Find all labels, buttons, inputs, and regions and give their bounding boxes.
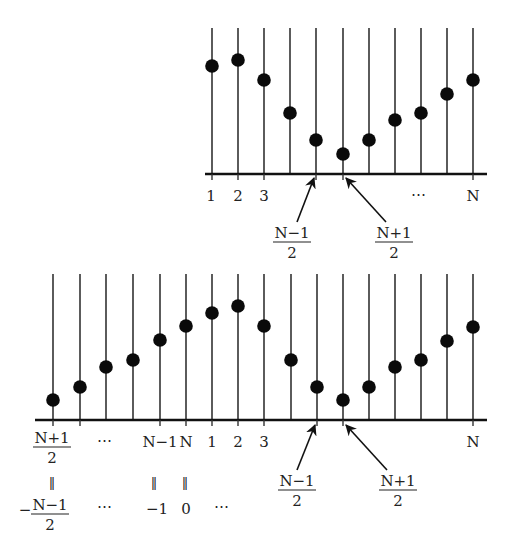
fraction-denominator: 2 [389,244,399,262]
bottom-stem-plot: ⋯N−1N123N‖‖‖⋯−10⋯N+12N−12−N−12N+12 [19,274,487,534]
fraction-denominator: 2 [47,449,57,467]
sample-dot [310,380,324,394]
pointer-arrow [297,425,315,470]
fraction-denominator: 2 [45,516,55,534]
sample-dot [205,59,219,73]
sample-dot [388,113,402,127]
index-label: 3 [259,433,269,451]
sample-dot [466,320,480,334]
sample-dot [153,333,167,347]
index-label: 2 [233,187,243,205]
fraction-numerator: N+1 [34,429,69,447]
fraction-label: N−12 [278,472,316,510]
top-stem-plot: 123⋯NN−12N+12 [205,28,487,262]
index-label: 1 [206,187,216,205]
fraction-denominator: 2 [393,492,403,510]
sample-dot [179,319,193,333]
index-label: N [466,433,479,451]
sample-dot [414,106,428,120]
fraction-numerator: N+1 [380,472,415,490]
pointer-arrow [297,178,314,222]
shifted-index-label: −1 [146,500,168,518]
sample-dot [336,147,350,161]
sample-dot [231,53,245,67]
fraction-numerator: N−1 [279,472,314,490]
sample-dot [283,106,297,120]
equals-mark: ‖ [182,475,189,490]
sample-dot [414,353,428,367]
sample-dot [257,319,271,333]
sample-dot [388,360,402,374]
fraction-label: N+12 [375,224,413,262]
equals-mark: ‖ [151,475,158,490]
sample-dot [466,73,480,87]
sample-dot [46,393,60,407]
sample-dot [336,393,350,407]
index-label: N [179,433,192,451]
equals-mark: ‖ [49,475,56,490]
minus-sign: − [19,501,32,519]
sample-dot [440,87,454,101]
sample-dot [309,133,323,147]
sample-dot [284,353,298,367]
index-label: N−1 [142,433,177,451]
sample-dot [257,73,271,87]
sample-dot [440,334,454,348]
circular-shift-diagram: 123⋯NN−12N+12 ⋯N−1N123N‖‖‖⋯−10⋯N+12N−12−… [0,0,505,556]
fraction-label: N+12 [33,429,71,467]
fraction-denominator: 2 [287,244,297,262]
index-label: ⋯ [411,185,426,203]
fraction-numerator: N−1 [32,496,67,514]
index-label: 2 [233,433,243,451]
sample-dot [205,306,219,320]
sample-dot [126,353,140,367]
sample-dot [99,360,113,374]
shifted-index-label: 0 [181,500,191,518]
index-label: 1 [207,433,217,451]
pointer-arrow [346,178,386,222]
fraction-label: N+12 [379,472,417,510]
fraction-numerator: N−1 [274,224,309,242]
fraction-label: N−12− [19,496,69,534]
fraction-label: N−12 [273,224,311,262]
pointer-arrow [346,425,387,470]
index-label: N [466,187,479,205]
fraction-denominator: 2 [292,492,302,510]
index-label: 3 [259,187,269,205]
sample-dot [362,133,376,147]
sample-dot [73,380,87,394]
shifted-index-label: ⋯ [214,497,229,515]
sample-dot [231,299,245,313]
index-label: ⋯ [97,431,112,449]
fraction-numerator: N+1 [376,224,411,242]
shifted-index-label: ⋯ [97,497,112,515]
sample-dot [362,380,376,394]
